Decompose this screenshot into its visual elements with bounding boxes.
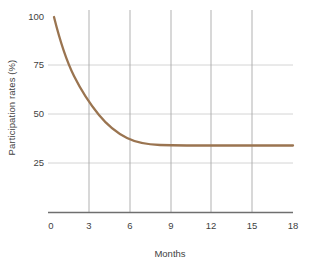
vertical-gridlines	[89, 10, 252, 212]
data-series-line	[54, 17, 293, 146]
x-tick-label-9: 9	[159, 221, 183, 231]
x-tick-label-0: 0	[39, 221, 63, 231]
participation-rates-chart: Participation rates (%) 100 75 50 25 0 3…	[0, 0, 310, 269]
x-tick-label-15: 15	[240, 221, 264, 231]
x-tick-label-18: 18	[281, 221, 305, 231]
horizontal-gridlines	[48, 17, 293, 163]
x-axis-title: Months	[0, 248, 310, 259]
x-tick-label-3: 3	[77, 221, 101, 231]
x-tick-label-12: 12	[199, 221, 223, 231]
x-tick-label-6: 6	[118, 221, 142, 231]
